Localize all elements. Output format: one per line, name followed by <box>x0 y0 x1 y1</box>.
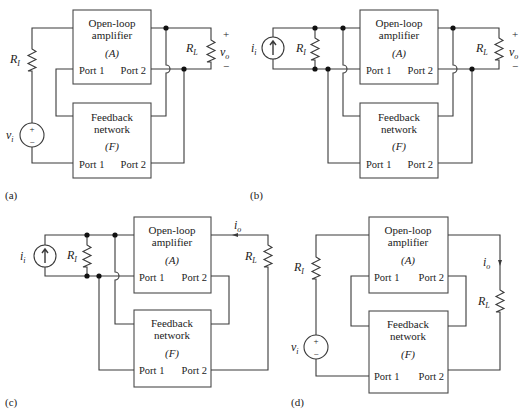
junction-dot <box>469 66 474 71</box>
wire <box>99 276 134 370</box>
wire <box>115 235 134 324</box>
input-resistor-label: RI <box>293 260 304 276</box>
feedback-title-line2: network <box>381 123 418 135</box>
feedback-title-line2: network <box>154 329 191 341</box>
wire <box>32 28 73 47</box>
input-resistor-label: RI <box>66 248 77 264</box>
wire <box>151 28 211 38</box>
wire <box>211 269 268 370</box>
amplifier-port1-label: Port 1 <box>79 65 104 76</box>
amplifier-title-line2: amplifier <box>92 29 133 41</box>
output-current-label: io <box>234 218 241 234</box>
feedback-symbol: (F) <box>392 140 406 153</box>
wire <box>56 69 73 116</box>
output-minus-sign: − <box>512 60 518 72</box>
junction-dot <box>181 66 186 71</box>
amplifier-symbol: (A) <box>401 254 415 267</box>
amplifier-title-line2: amplifier <box>388 236 429 248</box>
amplifier-port2-label: Port 2 <box>419 272 444 283</box>
feedback-symbol: (F) <box>401 348 415 361</box>
load-resistor-label: RL <box>244 249 257 265</box>
panel-label: (a) <box>5 189 18 202</box>
wire <box>151 28 170 116</box>
wire <box>438 28 499 36</box>
amplifier-title-line2: amplifier <box>152 236 193 248</box>
amplifier-title-line2: amplifier <box>379 29 420 41</box>
junction-dot <box>112 232 117 237</box>
output-minus-sign: − <box>223 60 229 72</box>
load-resistor-icon <box>207 38 215 64</box>
amplifier-title-line1: Open-loop <box>88 17 136 29</box>
feedback-topologies-figure: Open-loop amplifier (A) Port 1 Port 2 Fe… <box>0 0 523 416</box>
amplifier-symbol: (A) <box>165 254 179 267</box>
source-label: ii <box>251 41 257 57</box>
panel-label: (d) <box>291 396 304 409</box>
wire <box>316 359 369 376</box>
amplifier-port1-label: Port 1 <box>139 272 164 283</box>
wire <box>316 235 369 255</box>
feedback-port1-label: Port 1 <box>366 159 391 170</box>
load-resistor-label: RL <box>475 41 488 57</box>
amplifier-port2-label: Port 2 <box>182 272 207 283</box>
load-resistor-label: RL <box>185 41 198 57</box>
source-minus-sign: − <box>313 349 318 359</box>
source-minus-sign: − <box>29 137 34 147</box>
load-resistor-icon <box>495 36 503 62</box>
load-resistor-label: RL <box>477 294 490 310</box>
arrow-up-icon <box>270 41 276 55</box>
wire <box>151 64 211 69</box>
feedback-title-line1: Feedback <box>387 318 430 330</box>
resistor-icon <box>83 243 91 269</box>
wire <box>211 235 268 243</box>
panel-d: Open-loop amplifier (A) Port 1 Port 2 Fe… <box>291 217 504 409</box>
wire <box>448 314 500 370</box>
feedback-port2-label: Port 2 <box>408 159 433 170</box>
feedback-title-line2: network <box>390 330 427 342</box>
panel-b: Open-loop amplifier (A) Port 1 Port 2 Fe… <box>250 10 518 202</box>
output-voltage-label: vo <box>509 45 518 61</box>
junction-dot <box>163 25 168 30</box>
wire <box>351 276 369 326</box>
feedback-title-line1: Feedback <box>91 111 134 123</box>
junction-dot <box>340 25 345 30</box>
feedback-title-line1: Feedback <box>378 111 421 123</box>
wire <box>438 62 499 69</box>
junction-dot <box>96 273 101 278</box>
junction-dot <box>312 25 317 30</box>
wire <box>448 235 500 288</box>
feedback-port2-label: Port 2 <box>182 365 207 376</box>
resistor-icon <box>28 47 36 73</box>
amplifier-symbol: (A) <box>105 47 119 60</box>
feedback-symbol: (F) <box>105 140 119 153</box>
feedback-title-line1: Feedback <box>151 317 194 329</box>
junction-dot <box>84 273 89 278</box>
amplifier-symbol: (A) <box>392 47 406 60</box>
junction-dot <box>312 66 317 71</box>
source-label: vi <box>291 340 299 356</box>
arrow-up-icon <box>42 249 48 263</box>
feedback-port1-label: Port 1 <box>374 371 399 382</box>
panel-label: (c) <box>5 396 18 409</box>
output-current-label: io <box>483 255 490 271</box>
amplifier-title-line1: Open-loop <box>148 224 196 236</box>
panel-c: Open-loop amplifier (A) Port 1 Port 2 Fe… <box>5 217 272 409</box>
input-resistor-label: RI <box>295 41 306 57</box>
amplifier-title-line1: Open-loop <box>375 17 423 29</box>
output-plus-sign: + <box>512 28 518 40</box>
feedback-port2-label: Port 2 <box>419 371 444 382</box>
junction-dot <box>450 25 455 30</box>
wire <box>343 28 360 116</box>
junction-dot <box>325 66 330 71</box>
load-resistor-icon <box>264 243 272 269</box>
panel-a: Open-loop amplifier (A) Port 1 Port 2 Fe… <box>5 10 229 202</box>
source-plus-sign: + <box>313 336 318 346</box>
source-plus-sign: + <box>29 124 34 134</box>
source-label: vi <box>6 128 14 144</box>
wire <box>45 235 134 245</box>
wire <box>448 276 466 326</box>
resistor-icon <box>312 255 320 281</box>
amplifier-port1-label: Port 1 <box>374 272 399 283</box>
load-resistor-icon <box>496 288 504 314</box>
amplifier-title-line1: Open-loop <box>384 224 432 236</box>
junction-dot <box>84 232 89 237</box>
